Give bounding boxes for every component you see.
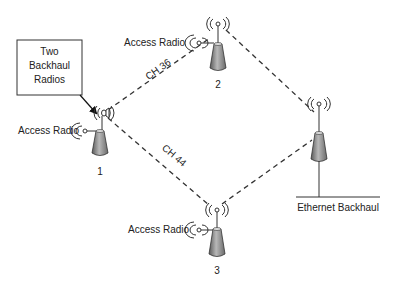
- svg-text:Radios: Radios: [34, 74, 65, 85]
- node-label-1: 1: [97, 166, 103, 177]
- links: [108, 30, 314, 206]
- node-1: Access Radio 1: [18, 106, 114, 177]
- access-radio-icon: [185, 222, 213, 238]
- svg-text:Backhaul: Backhaul: [29, 60, 70, 71]
- svg-text:CH 36: CH 36: [143, 56, 173, 82]
- node-3: Access Radio 3: [128, 203, 228, 276]
- tower-icon: [210, 44, 226, 71]
- access-radio-label-3: Access Radio: [128, 224, 190, 235]
- svg-text:CH 44: CH 44: [160, 142, 189, 169]
- mesh-network-diagram: CH 36 CH 44 Two Backhaul Radios Access R…: [0, 0, 394, 290]
- access-radio-label-1: Access Radio: [18, 125, 80, 136]
- access-radio-icon: [185, 35, 214, 51]
- link-1-3: [108, 118, 210, 206]
- link-label-ch44: CH 44: [160, 142, 189, 169]
- ethernet-backhaul-label: Ethernet Backhaul: [297, 202, 379, 213]
- tower-icon: [311, 133, 327, 162]
- link-2-gateway: [226, 30, 314, 112]
- link-3-gateway: [222, 140, 312, 204]
- callout-arrow: [80, 95, 96, 113]
- node-label-3: 3: [214, 265, 220, 276]
- access-radio-label-2: Access Radio: [124, 37, 186, 48]
- tower-icon: [92, 131, 108, 156]
- node-2: Access Radio 2: [124, 17, 229, 90]
- node-label-2: 2: [215, 79, 221, 90]
- node-gateway: Ethernet Backhaul: [296, 97, 380, 213]
- svg-text:Two: Two: [40, 46, 59, 57]
- link-label-ch36: CH 36: [143, 56, 173, 82]
- callout-backhaul-radios: Two Backhaul Radios: [17, 40, 96, 113]
- tower-icon: [209, 229, 225, 257]
